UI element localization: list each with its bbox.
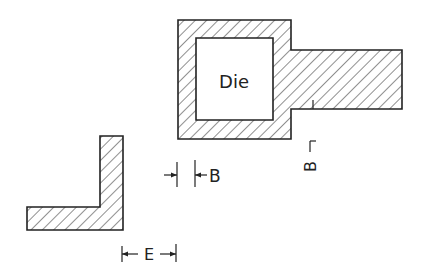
l-shape-part: [27, 136, 123, 230]
section-marker-label: B: [301, 161, 320, 172]
die-shape: [178, 20, 402, 139]
section-marker: B: [301, 141, 320, 172]
dimension-b-label: B: [209, 166, 221, 186]
die-label: Die: [219, 71, 249, 92]
die-diagram: Die B E B: [0, 0, 428, 278]
dimension-e-label: E: [144, 245, 154, 264]
dimension-b: [164, 160, 207, 187]
